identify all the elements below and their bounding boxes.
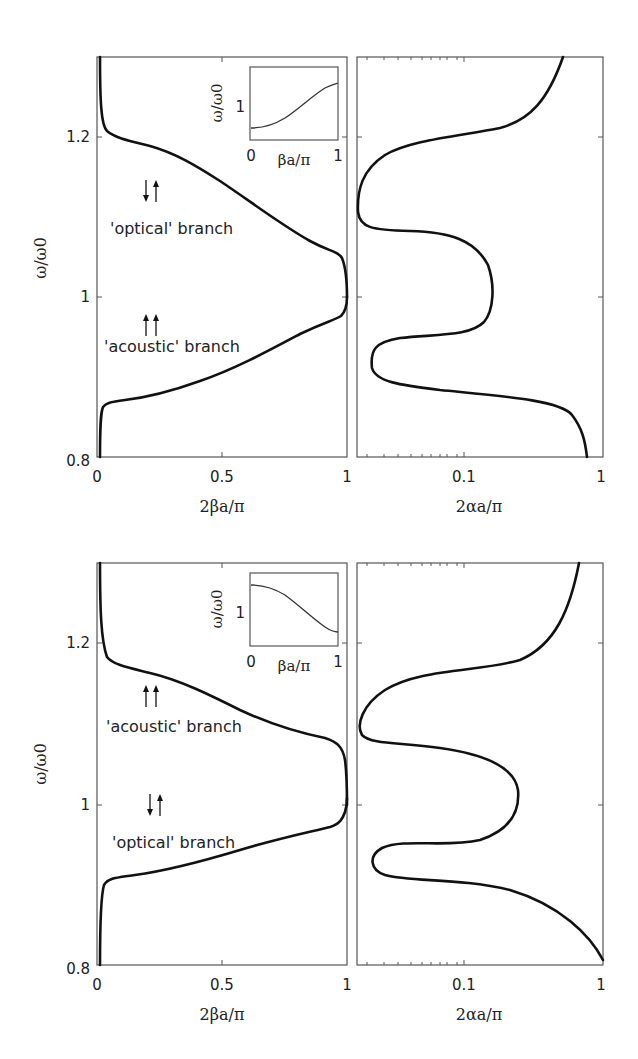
inset-xlabel: βa/π (278, 657, 311, 675)
top-right-panel: 0.1 1 2αa/π (357, 57, 606, 516)
acoustic-branch-label: 'acoustic' branch (104, 337, 240, 356)
xtick-label: 1 (342, 976, 352, 994)
xtick-label: 1 (596, 468, 606, 486)
figure: 1.2 1 0.8 0 0.5 1 2βa/π ω/ω0 'optical' b… (0, 0, 638, 1059)
attenuation-curve (360, 563, 603, 960)
attenuation-curve (358, 57, 587, 457)
xtick-label: 0.1 (452, 976, 476, 994)
y-axis-label: ω/ω0 (31, 743, 50, 785)
ytick-label: 1.2 (66, 634, 90, 652)
x-axis-label: 2βa/π (200, 1005, 245, 1024)
xtick-label: 0 (92, 976, 102, 994)
acoustic-spin-arrows-icon (143, 314, 159, 336)
inset-xtick: 0 (246, 147, 256, 165)
optical-branch-label: 'optical' branch (112, 833, 235, 852)
inset-xlabel: βa/π (278, 151, 311, 169)
acoustic-branch-label: 'acoustic' branch (106, 717, 242, 736)
xtick-label: 1 (596, 976, 606, 994)
y-axis-label: ω/ω0 (31, 237, 50, 279)
xtick-label: 0 (92, 468, 102, 486)
acoustic-spin-arrows-icon (143, 685, 159, 707)
inset-ylabel: ω/ω0 (208, 83, 226, 122)
inset-plot: 1 ω/ω0 0 1 βa/π (208, 67, 343, 169)
ytick-label: 0.8 (66, 960, 90, 978)
ytick-label: 0.8 (66, 452, 90, 470)
x-axis-label: 2αa/π (456, 1005, 502, 1024)
inset-xtick: 0 (246, 653, 256, 671)
inset-xtick: 1 (333, 147, 343, 165)
plot-frame (357, 563, 603, 965)
acoustic-branch-curve (100, 297, 347, 457)
xtick-label: 0.1 (452, 468, 476, 486)
xtick-label: 1 (342, 468, 352, 486)
ytick-label: 1 (80, 796, 90, 814)
inset-xtick: 1 (333, 653, 343, 671)
optical-branch-curve (100, 798, 347, 965)
optical-spin-arrows-icon (147, 794, 163, 816)
bottom-left-panel: 1.2 1 0.8 0 0.5 1 2βa/π ω/ω0 'acoustic' … (31, 563, 352, 1024)
inset-ytick: 1 (235, 604, 245, 622)
inset-ytick: 1 (235, 98, 245, 116)
optical-spin-arrows-icon (143, 180, 159, 202)
plot-frame (357, 57, 603, 457)
ytick-label: 1 (80, 288, 90, 306)
xtick-label: 0.5 (210, 468, 234, 486)
x-axis-label: 2βa/π (200, 497, 245, 516)
inset-ylabel: ω/ω0 (208, 589, 226, 628)
x-axis-label: 2αa/π (456, 497, 502, 516)
inset-plot: 1 ω/ω0 0 1 βa/π (208, 573, 343, 675)
xtick-label: 0.5 (210, 976, 234, 994)
ytick-label: 1.2 (66, 128, 90, 146)
optical-branch-label: 'optical' branch (110, 219, 233, 238)
top-left-panel: 1.2 1 0.8 0 0.5 1 2βa/π ω/ω0 'optical' b… (31, 57, 352, 516)
bottom-right-panel: 0.1 1 2αa/π (357, 563, 606, 1024)
